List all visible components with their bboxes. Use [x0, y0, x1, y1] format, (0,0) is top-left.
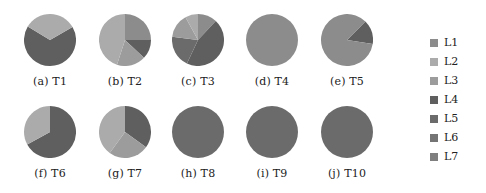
pie-caption: (a) T1: [15, 75, 85, 88]
pie: [99, 14, 151, 66]
legend-item-l2: L2: [430, 52, 458, 71]
pie-chart-t5: (e) T5: [312, 14, 382, 88]
legend-swatch: [430, 39, 438, 47]
pie: [24, 14, 76, 66]
pie-caption: (f) T6: [15, 167, 85, 180]
pie-caption: (g) T7: [90, 167, 160, 180]
pie-caption: (d) T4: [237, 75, 307, 88]
pie: [172, 14, 224, 66]
pie-slice: [125, 14, 151, 40]
legend: L1 L2 L3 L4 L5 L6 L7: [430, 33, 458, 166]
pie-chart-t8: (h) T8: [163, 106, 233, 180]
legend-label: L1: [444, 36, 458, 49]
legend-swatch: [430, 58, 438, 66]
pie-caption: (e) T5: [312, 75, 382, 88]
pie-caption: (i) T9: [237, 167, 307, 180]
legend-label: L6: [444, 131, 458, 144]
pie-chart-t7: (g) T7: [90, 106, 160, 180]
legend-swatch: [430, 134, 438, 142]
pie: [321, 106, 373, 158]
legend-item-l1: L1: [430, 33, 458, 52]
pie-chart-t1: (a) T1: [15, 14, 85, 88]
pie-chart-t4: (d) T4: [237, 14, 307, 88]
pie-chart-t9: (i) T9: [237, 106, 307, 180]
legend-item-l3: L3: [430, 71, 458, 90]
pie-caption: (b) T2: [90, 75, 160, 88]
legend-label: L4: [444, 93, 458, 106]
legend-item-l7: L7: [430, 147, 458, 166]
legend-label: L7: [444, 150, 458, 163]
legend-item-l4: L4: [430, 90, 458, 109]
pie-chart-t3: (c) T3: [163, 14, 233, 88]
legend-label: L3: [444, 74, 458, 87]
legend-swatch: [430, 77, 438, 85]
pie: [246, 14, 298, 66]
pie-chart-t10: (j) T10: [312, 106, 382, 180]
pie-caption: (j) T10: [312, 167, 382, 180]
pie: [321, 14, 373, 66]
legend-label: L5: [444, 112, 458, 125]
legend-swatch: [430, 115, 438, 123]
pie-slice: [246, 106, 298, 158]
pie-slice: [321, 106, 373, 158]
legend-swatch: [430, 96, 438, 104]
pie-chart-t6: (f) T6: [15, 106, 85, 180]
legend-item-l6: L6: [430, 128, 458, 147]
pie-caption: (c) T3: [163, 75, 233, 88]
pie-slice: [246, 14, 298, 66]
legend-item-l5: L5: [430, 109, 458, 128]
pie: [24, 106, 76, 158]
pie: [246, 106, 298, 158]
pie: [99, 106, 151, 158]
legend-label: L2: [444, 55, 458, 68]
pie-chart-t2: (b) T2: [90, 14, 160, 88]
legend-swatch: [430, 153, 438, 161]
pie-slice: [172, 106, 224, 158]
pie-caption: (h) T8: [163, 167, 233, 180]
pie: [172, 106, 224, 158]
